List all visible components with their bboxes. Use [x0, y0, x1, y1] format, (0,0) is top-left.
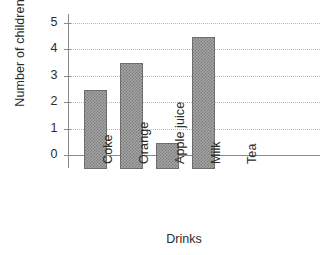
- x-axis-tick-labels: CokeOrangeApple juiceMilkTea: [68, 162, 320, 232]
- y-axis-tick-label: 1: [46, 121, 62, 135]
- y-axis-tick-label: 5: [46, 15, 62, 29]
- x-axis-tick-label: Apple juice: [173, 102, 187, 164]
- bar-chart: Number of children 012345 CokeOrangeAppl…: [0, 0, 334, 255]
- y-axis-tick-label: 4: [46, 41, 62, 55]
- x-axis-tick-label: Tea: [245, 144, 259, 164]
- x-axis-tick-label: Milk: [209, 141, 223, 164]
- y-axis-tick-label: 0: [46, 147, 62, 161]
- x-axis-tick-label: Coke: [101, 134, 115, 164]
- y-axis-title: Number of children: [13, 0, 27, 128]
- y-axis-tick-label: 2: [46, 94, 62, 108]
- y-axis-line: [68, 14, 69, 168]
- y-axis-tick-label: 3: [46, 68, 62, 82]
- x-axis-title: Drinks: [0, 232, 334, 246]
- gridline: [68, 23, 320, 24]
- x-axis-tick-label: Orange: [137, 122, 151, 164]
